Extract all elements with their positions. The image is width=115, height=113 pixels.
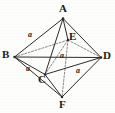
edge-ac [45,19,63,75]
edge-length-label-ab: a [28,31,32,39]
edge-length-label-bc: a [26,65,30,73]
vertex-dot-d [100,56,103,59]
vertex-label-b: B [2,49,9,60]
vertex-label-f: F [59,99,66,110]
edge-length-label-cd: a [76,67,80,75]
octahedron-drawing [0,0,115,113]
vertex-dot-b [13,56,16,59]
vertex-label-a: A [59,3,67,14]
vertex-label-e: E [69,31,76,42]
edge-cf [45,75,62,98]
edge-length-label-ae: a [60,52,64,60]
edge-bd [15,57,102,58]
edge-ed [68,40,101,58]
octahedron-figure: A B C D E F a a a a [0,0,115,113]
vertex-label-c: C [38,74,46,85]
vertex-dot-a [62,17,65,20]
vertex-label-d: D [103,50,111,61]
edge-ab [15,19,64,58]
